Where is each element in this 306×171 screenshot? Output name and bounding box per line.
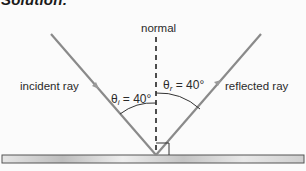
theta-symbol: θ [111,92,118,106]
subscript-r: r [170,84,173,93]
mirror-surface [2,155,304,163]
reflection-angle-arc [156,93,200,109]
incidence-angle-value: = 40° [123,92,152,106]
reflection-angle-label: θr = 40° [163,78,204,93]
incident-ray-label: incident ray [20,80,79,92]
reflection-angle-value: = 40° [176,78,205,92]
normal-label: normal [141,22,176,34]
reflected-arrow-icon [214,80,221,86]
reflection-diagram: Solution: [0,0,306,171]
incidence-angle-label: θi = 40° [111,92,151,107]
subscript-i: i [118,98,120,107]
theta-symbol: θ [163,78,170,92]
reflected-ray-label: reflected ray [225,80,288,92]
